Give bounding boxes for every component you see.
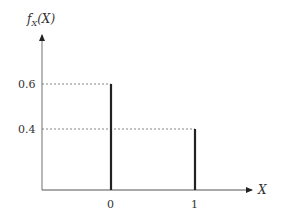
xtick-1: 1: [191, 198, 198, 211]
pmf-chart: fX(X) 0.6 0.4 0 1 X: [0, 0, 281, 217]
ytick-0.4: 0.4: [18, 123, 36, 136]
y-axis-label: fX(X): [26, 12, 55, 28]
x-axis-label: X: [257, 183, 267, 197]
ytick-0.6: 0.6: [18, 78, 36, 91]
xtick-0: 0: [107, 198, 114, 211]
